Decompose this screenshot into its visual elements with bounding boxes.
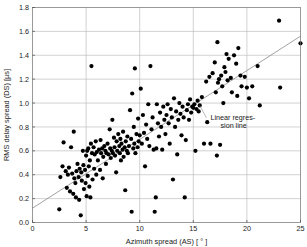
x-tick-label: 10	[136, 224, 144, 233]
regression-line-layer	[33, 36, 301, 208]
x-axis-title: Azimuth spread (AS) [ ° ]	[126, 237, 207, 246]
x-tick-label: 0	[31, 224, 35, 233]
x-tick-label: 15	[189, 224, 197, 233]
scatter-plot-figure: 0.00.20.40.60.81.01.21.41.61.80510152025…	[0, 0, 307, 247]
y-tick-label: 1.8	[19, 3, 29, 12]
chart-canvas: 0.00.20.40.60.81.01.21.41.61.80510152025…	[0, 0, 307, 247]
annotation-layer: Linear regres- sion line	[200, 105, 256, 130]
y-tick-label: 1.0	[19, 99, 29, 108]
x-tick-label: 25	[297, 224, 305, 233]
y-tick-label: 0.0	[19, 218, 29, 227]
y-tick-label: 0.8	[19, 123, 29, 132]
y-tick-label: 1.6	[19, 27, 29, 36]
data-points-layer	[57, 19, 302, 218]
y-tick-label: 0.6	[19, 146, 29, 155]
y-tick-label: 1.4	[19, 51, 29, 60]
y-axis-title: RMS delay spread (DS) [µs]	[2, 69, 11, 161]
x-tick-label: 5	[84, 224, 88, 233]
x-tick-label: 20	[243, 224, 251, 233]
y-tick-label: 0.2	[19, 194, 29, 203]
y-tick-label: 1.2	[19, 75, 29, 84]
regression-annotation-line2: sion line	[220, 121, 246, 130]
y-tick-label: 0.4	[19, 170, 29, 179]
